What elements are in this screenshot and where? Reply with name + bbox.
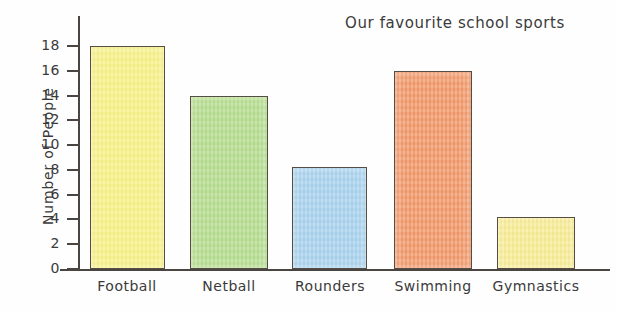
- bar-chart: Our favourite school sports Number of Pe…: [0, 0, 617, 312]
- bar-football: [90, 46, 165, 269]
- bar-rounders: [292, 167, 367, 269]
- plot-area: FootballNetballRoundersSwimmingGymnastic…: [0, 0, 617, 312]
- bar-netball: [190, 96, 268, 269]
- x-tick-label-swimming: Swimming: [373, 278, 493, 294]
- bar-swimming: [394, 71, 472, 269]
- x-tick-label-gymnastics: Gymnastics: [476, 278, 596, 294]
- bar-gymnastics: [497, 217, 575, 269]
- x-tick-label-rounders: Rounders: [270, 278, 390, 294]
